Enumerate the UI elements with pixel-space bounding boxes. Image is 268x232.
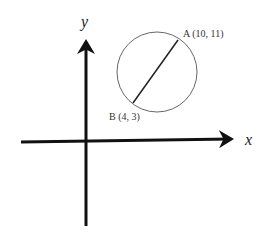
x-axis-label: x	[244, 131, 252, 148]
x-axis	[21, 139, 231, 142]
circle	[117, 32, 197, 112]
point-b-label: B (4, 3)	[109, 111, 140, 123]
diameter-segment-ab	[133, 40, 178, 103]
coordinate-diagram: x y A (10, 11) B (4, 3)	[0, 0, 268, 232]
y-axis-label: y	[79, 13, 89, 31]
point-a-label: A (10, 11)	[183, 28, 223, 40]
